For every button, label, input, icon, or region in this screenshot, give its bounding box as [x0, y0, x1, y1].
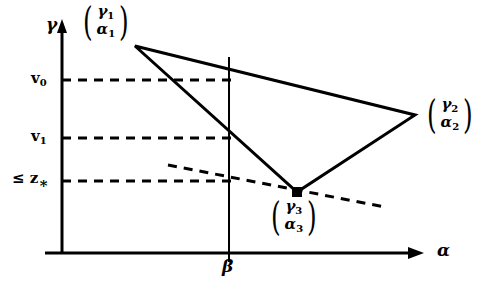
vertex-1-bottom: α1 — [97, 21, 116, 39]
vertex-1-top-symbol: γ — [97, 2, 107, 20]
vertex-2-top-symbol: γ — [441, 95, 451, 113]
tick-label-v0-sub: 0 — [40, 77, 47, 88]
vertex-3-bottom-sub: 3 — [296, 223, 303, 234]
vertex-1-stack: γ1 α1 — [96, 3, 117, 40]
tick-label-z-star-text: ≤ z — [12, 169, 38, 187]
vertex-3-paren-right: ) — [307, 200, 317, 233]
vertex-3-top-sub: 3 — [295, 205, 302, 216]
vertex-3-bottom-symbol: α — [285, 215, 297, 233]
y-axis — [57, 19, 67, 253]
figure-canvas: γ α v0 v1 ≤ z∗ β ( γ1 α1 ) ( γ2 α2 ) ( γ… — [0, 0, 489, 294]
vertex-3-top-symbol: γ — [285, 197, 295, 215]
vertex-1-top-sub: 1 — [107, 10, 114, 21]
tick-label-z-star: ≤ z∗ — [12, 171, 48, 191]
y-axis-label: γ — [46, 16, 57, 33]
vertex-3-paren-left: ( — [271, 200, 281, 233]
tick-label-z-star-sub: ∗ — [38, 174, 48, 192]
tick-label-v0-text: v — [31, 69, 40, 87]
vertex-2-bottom: α2 — [441, 114, 460, 132]
vertex-1-paren-right: ) — [119, 5, 129, 38]
vertex-2-bottom-sub: 2 — [452, 121, 459, 132]
triangle-shape — [135, 46, 415, 192]
vertex-2-paren-left: ( — [427, 98, 437, 131]
vertex-1-label: ( γ1 α1 ) — [80, 3, 132, 40]
vertex-1-top: γ1 — [97, 3, 114, 21]
diagram-svg — [0, 0, 489, 294]
vertex-1-bottom-symbol: α — [97, 20, 109, 38]
vertex-3-top: γ3 — [285, 198, 302, 216]
vertex-2-label: ( γ2 α2 ) — [424, 96, 476, 133]
tick-label-v1: v1 — [31, 129, 47, 146]
tick-label-v1-sub: 1 — [40, 135, 47, 146]
vertex-2-paren-right: ) — [463, 98, 473, 131]
vertex-3-stack: γ3 α3 — [284, 198, 305, 235]
vertex-3-label: ( γ3 α3 ) — [268, 198, 320, 235]
tick-label-v0: v0 — [31, 71, 47, 88]
x-axis — [45, 247, 424, 259]
vertex-1-paren-left: ( — [83, 5, 93, 38]
vertex-2-top-sub: 2 — [451, 103, 458, 114]
tick-label-beta: β — [222, 258, 233, 275]
tick-label-v1-text: v — [31, 127, 40, 145]
vertex-1-bottom-sub: 1 — [108, 28, 115, 39]
vertex-2-stack: γ2 α2 — [440, 96, 461, 133]
vertex-2-bottom-symbol: α — [441, 113, 453, 131]
vertex-3-bottom: α3 — [285, 216, 304, 234]
vertex-2-top: γ2 — [441, 96, 458, 114]
x-axis-label: α — [437, 242, 450, 259]
vertex-3-marker — [292, 187, 302, 197]
